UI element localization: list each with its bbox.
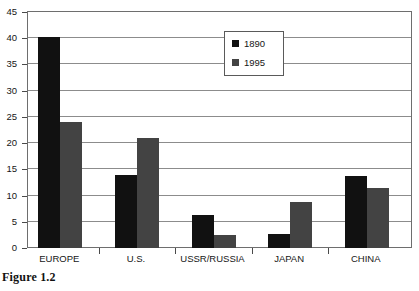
legend: 1890 1995 (224, 31, 284, 76)
y-tick-label: 35 (6, 60, 17, 70)
legend-item-1890: 1890 (232, 39, 265, 49)
bar-japan-1995 (290, 202, 312, 248)
x-axis-labels: EUROPEU.S.USSR/RUSSIAJAPANCHINA (27, 253, 412, 269)
bar-ussr-russia-1890 (192, 215, 214, 248)
y-tick-label: 30 (6, 86, 17, 96)
x-tick-label: USSR/RUSSIA (180, 253, 244, 264)
bars-layer (28, 12, 411, 248)
y-tick-label: 40 (6, 33, 17, 43)
y-tick-label: 25 (6, 112, 17, 122)
bar-europe-1995 (60, 122, 82, 248)
x-tick-label: CHINA (351, 253, 381, 264)
bar-ussr-russia-1995 (214, 235, 236, 248)
bar-u-s--1890 (115, 175, 137, 248)
bar-china-1995 (367, 188, 389, 248)
y-tick-mark (22, 248, 27, 249)
y-tick-label: 45 (6, 7, 17, 17)
bar-u-s--1995 (137, 138, 159, 248)
bar-japan-1890 (268, 234, 290, 248)
y-tick-label: 10 (6, 191, 17, 201)
y-tick-label: 20 (6, 138, 17, 148)
x-tick-label: JAPAN (274, 253, 304, 264)
y-tick-label: 5 (12, 217, 17, 227)
y-axis: 051015202530354045 (0, 0, 27, 260)
y-tick-label: 15 (6, 165, 17, 175)
legend-label: 1890 (244, 39, 265, 49)
figure-container: 051015202530354045 EUROPEU.S.USSR/RUSSIA… (0, 0, 419, 291)
x-tick-label: U.S. (127, 253, 145, 264)
legend-swatch-icon (232, 59, 239, 66)
legend-item-1995: 1995 (232, 58, 265, 68)
bar-china-1890 (345, 176, 367, 248)
bar-europe-1890 (38, 37, 60, 248)
legend-swatch-icon (232, 40, 239, 47)
legend-label: 1995 (244, 58, 265, 68)
figure-caption: Figure 1.2 (2, 270, 56, 285)
x-tick-label: EUROPE (39, 253, 79, 264)
y-tick-label: 0 (12, 243, 17, 253)
